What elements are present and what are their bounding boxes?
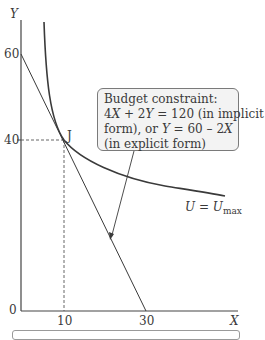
bottom-caption-frame xyxy=(12,330,240,340)
y-tick-60: 60 xyxy=(4,48,19,61)
y-axis-label: Y xyxy=(10,8,18,21)
callout-line-2: 4X + 2Y = 120 (in implicit xyxy=(104,107,238,122)
x-tick-10: 10 xyxy=(57,315,72,328)
arrowhead-icon xyxy=(109,232,114,240)
callout-line-4: (in explicit form) xyxy=(104,137,238,152)
x-tick-30: 30 xyxy=(139,315,154,328)
y-tick-40: 40 xyxy=(4,134,19,147)
callout-line-1: Budget constraint: xyxy=(104,92,238,107)
callout-line-3: form), or Y = 60 – 2X xyxy=(104,122,238,137)
budget-constraint-callout: Budget constraint: 4X + 2Y = 120 (in imp… xyxy=(97,88,239,151)
point-j-label: J xyxy=(67,130,72,143)
callout-arrow xyxy=(112,151,134,235)
origin-label: 0 xyxy=(9,304,17,317)
curve-label: U = Umax xyxy=(185,201,242,214)
x-axis-label: X xyxy=(230,315,239,328)
